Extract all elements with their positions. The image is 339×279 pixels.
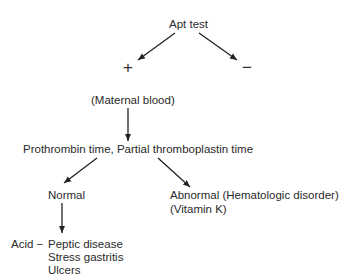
acid-prefix: Acid − [11, 238, 43, 251]
acid-item-stress-gastritis: Stress gastritis [48, 251, 123, 264]
arrow-coag-to-abnormal [158, 158, 190, 187]
apt-test-node: Apt test [169, 18, 208, 31]
acid-item-ulcers: Ulcers [48, 264, 81, 277]
negative-node: − [242, 59, 252, 76]
arrow-coag-to-normal [64, 158, 97, 183]
arrow-apt-to-negative [199, 33, 237, 60]
coag-test-node: Prothrombin time, Partial thromboplastin… [23, 143, 253, 156]
normal-node: Normal [48, 189, 85, 202]
positive-node: + [123, 59, 133, 76]
maternal-blood-node: (Maternal blood) [91, 94, 175, 107]
acid-item-peptic-disease: Peptic disease [48, 238, 123, 251]
arrow-apt-to-positive [138, 33, 175, 60]
abnormal-node: Abnormal (Hematologic disorder) [170, 189, 339, 202]
vitamin-k-note: (Vitamin K) [170, 203, 227, 216]
